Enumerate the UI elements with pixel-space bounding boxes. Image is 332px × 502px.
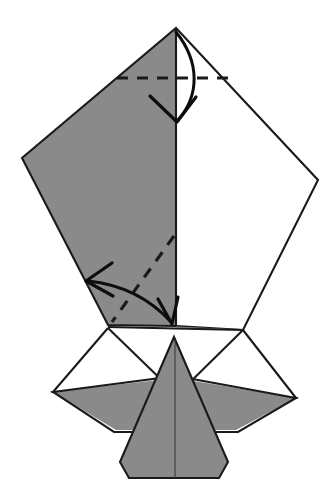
origami-diagram-root	[0, 0, 332, 502]
origami-diagram-canvas	[0, 0, 332, 502]
